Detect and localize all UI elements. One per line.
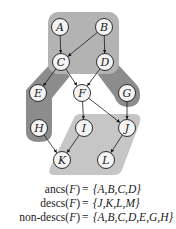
function-name: non-descs <box>19 211 65 223</box>
edge-A-C <box>60 35 61 53</box>
node-label: G <box>123 87 132 100</box>
node-label: C <box>57 56 66 69</box>
function-name: descs <box>40 197 65 209</box>
node-label: E <box>33 87 42 100</box>
equals-sign: = <box>82 197 89 209</box>
node-C: C <box>53 54 70 71</box>
node-A: A <box>52 19 69 36</box>
node-label: K <box>57 154 67 167</box>
node-J: J <box>119 120 136 137</box>
function-arg: F <box>69 197 76 209</box>
node-E: E <box>30 85 47 102</box>
node-I: I <box>76 120 93 137</box>
node-L: L <box>98 152 115 169</box>
node-H: H <box>31 120 48 137</box>
node-label: H <box>33 122 44 135</box>
node-K: K <box>54 152 71 169</box>
node-label: J <box>123 122 130 135</box>
node-label: A <box>55 21 64 34</box>
node-label: L <box>101 154 109 167</box>
equals-sign: = <box>82 183 89 195</box>
edge-B-D <box>104 35 105 53</box>
set-value: {J,K,L,M} <box>93 197 140 209</box>
equals-sign: = <box>82 211 89 223</box>
set-value: {A,B,C,D,E,G,H} <box>93 211 173 223</box>
node-label: D <box>100 56 110 69</box>
node-D: D <box>97 54 114 71</box>
node-B: B <box>96 19 113 36</box>
function-arg: F <box>69 183 76 195</box>
node-F: F <box>74 85 91 102</box>
node-G: G <box>119 85 136 102</box>
node-label: I <box>81 122 87 135</box>
function-name: ancs <box>45 183 65 195</box>
node-label: B <box>99 21 108 34</box>
function-arg: F <box>69 211 76 223</box>
set-value: {A,B,C,D} <box>93 183 141 195</box>
node-label: F <box>77 87 86 100</box>
